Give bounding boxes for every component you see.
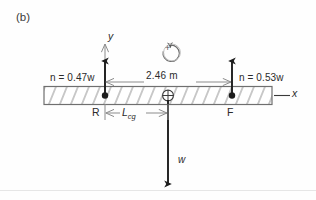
cg-distance-label: Lcg: [122, 107, 136, 121]
panel-label: (b): [16, 12, 30, 24]
right-normal-force-label: n = 0.53w: [239, 73, 284, 83]
weight-label: w: [178, 155, 185, 165]
figure-container: (b) y x n = 0.47w n = 0.53w 2.46 m R F L…: [0, 0, 316, 200]
x-axis-label: x: [292, 88, 297, 99]
beam-rect: [44, 87, 272, 105]
left-normal-force-label: n = 0.47w: [50, 73, 95, 83]
left-reaction-point-label: R: [92, 107, 100, 118]
y-axis-label: y: [108, 31, 113, 42]
positive-moment-icon: [161, 43, 182, 64]
positive-sign-label: +: [165, 44, 170, 53]
diagram-canvas: [0, 0, 316, 200]
center-of-gravity-marker: [163, 90, 174, 101]
right-contact-point: [229, 92, 235, 98]
cg-distance-subscript: cg: [128, 112, 136, 121]
cg-dimension-line: [105, 104, 168, 120]
left-contact-point: [102, 92, 108, 98]
right-reaction-point-label: F: [227, 107, 233, 118]
span-dimension-label: 2.46 m: [146, 71, 178, 81]
beam: [44, 87, 272, 105]
